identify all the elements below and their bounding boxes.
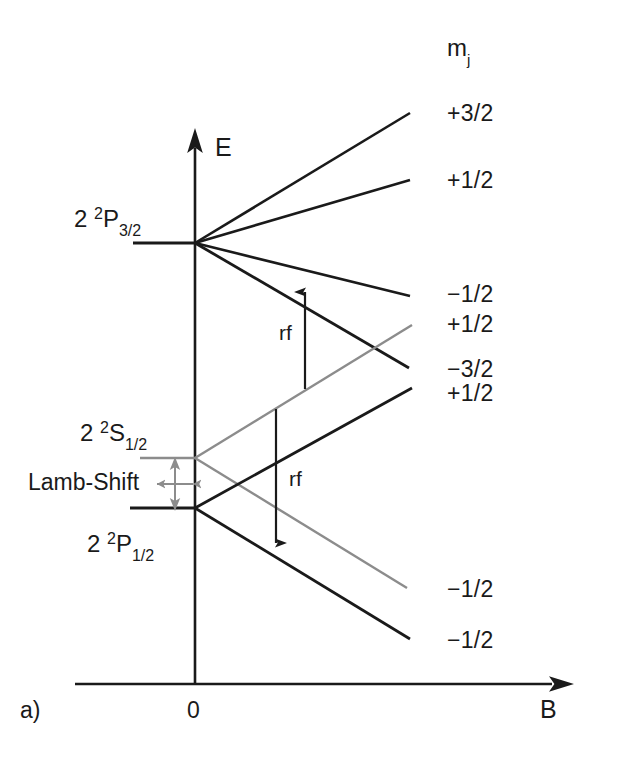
mj-label-p32-minus12: −1/2 <box>447 283 494 306</box>
zeeman-line-p32-minus32 <box>195 243 409 368</box>
origin-label: 0 <box>187 699 200 722</box>
mj-label-s12-minus12: −1/2 <box>447 578 494 601</box>
x-axis-label: B <box>540 697 557 722</box>
panel-label: a) <box>20 699 40 722</box>
mj-label-p12-plus12: +1/2 <box>447 382 494 405</box>
term-label-2p32: 2 2P3/2 <box>74 205 141 236</box>
mj-header-symbol: m <box>447 34 467 61</box>
term-2p12-subscript: 1/2 <box>132 547 154 564</box>
diagram-canvas <box>0 0 621 768</box>
x-axis-arrowhead <box>549 676 574 692</box>
mj-label-p32-minus32: −3/2 <box>447 358 494 381</box>
zeeman-line-p12-minus12 <box>195 508 410 639</box>
y-axis <box>187 128 203 684</box>
lamb-shift-label: Lamb-Shift <box>28 471 139 494</box>
mj-column-header: mj <box>447 36 470 64</box>
rf-up-label: rf <box>279 322 292 343</box>
mj-label-p12-minus12: −1/2 <box>447 629 494 652</box>
mj-label-p32-plus12: +1/2 <box>447 169 494 192</box>
mj-header-subscript: j <box>467 51 470 68</box>
term-2s12-subscript: 1/2 <box>125 436 147 453</box>
term-2p32-prefix: 2 <box>74 205 87 232</box>
term-2p32-subscript: 3/2 <box>119 222 141 239</box>
zeeman-line-p32-plus12 <box>195 180 410 243</box>
term-2p12-superscript: 2 <box>107 530 116 547</box>
rf-down-label: rf <box>289 468 302 489</box>
term-2p12-letter: P <box>116 530 132 557</box>
mj-label-p32-plus32: +3/2 <box>447 102 494 125</box>
y-axis-label: E <box>215 135 232 160</box>
term-2s12-prefix: 2 <box>80 419 93 446</box>
term-2p32-letter: P <box>103 205 119 232</box>
zeeman-line-p12-plus12 <box>195 388 412 508</box>
term-label-2p12: 2 2P1/2 <box>87 530 154 561</box>
term-2s12-superscript: 2 <box>100 419 109 436</box>
zeeman-lamb-shift-figure: mj +3/2 +1/2 −1/2 +1/2 −3/2 +1/2 −1/2 −1… <box>0 0 621 768</box>
term-2p12-prefix: 2 <box>87 530 100 557</box>
mj-label-s12-plus12: +1/2 <box>447 313 494 336</box>
term-2s12-letter: S <box>109 419 125 446</box>
term-label-2s12: 2 2S1/2 <box>80 419 147 450</box>
x-axis <box>75 676 574 692</box>
zeeman-line-p32-minus12 <box>195 243 410 296</box>
zeeman-line-s12-plus12 <box>195 325 412 458</box>
term-2p32-superscript: 2 <box>94 205 103 222</box>
